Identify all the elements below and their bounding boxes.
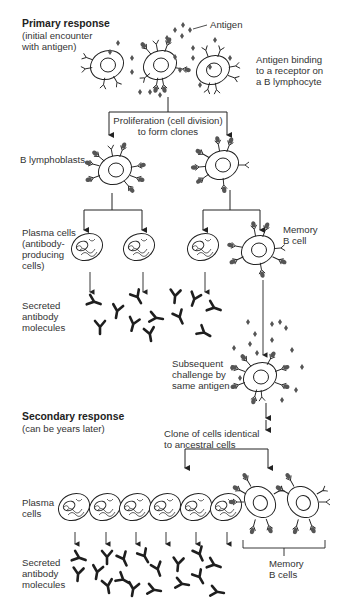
clone-identical-label: Clone of cells identical to ancestral ce… (164, 428, 259, 450)
memory-b-cell (227, 221, 288, 279)
secondary-response-heading: Secondary response (22, 411, 124, 422)
memory-b-cell-3 (274, 472, 330, 535)
memory-b-cells-label: Memory B cells (269, 558, 304, 580)
b-lymphoblast-1 (84, 142, 146, 195)
b-lymphocyte-3 (192, 45, 240, 94)
plasma-cell (119, 228, 159, 265)
secretion-arrows-2 (75, 532, 227, 544)
plasma-cells-label-2: Plasma cells (22, 497, 54, 519)
antibody-molecules-1 (87, 289, 223, 341)
b-lymphoblast-2 (191, 136, 249, 194)
plasma-cells-label: Plasma cells (antibody- producing cells) (22, 227, 76, 271)
memory-b-cell-label: Memory B cell (283, 224, 318, 246)
primary-response-heading: Primary response (22, 18, 110, 29)
secreted-antibody-label: Secreted antibody molecules (22, 300, 65, 333)
antigen-leader-line (193, 25, 207, 29)
b-lymphocyte-2 (139, 37, 192, 94)
differentiation-arrows (84, 190, 260, 230)
plasma-cell (183, 228, 223, 265)
plasma-cells-row-2 (54, 488, 246, 525)
secondary-response-subtitle: (can be years later) (22, 423, 105, 434)
subsequent-challenge-label: Subsequent challenge by same antigen (172, 358, 230, 391)
antigen-binding-label: Antigen binding to a receptor on a B lym… (256, 54, 323, 87)
secreted-antibody-label-2: Secreted antibody molecules (22, 557, 65, 590)
immune-response-diagram: Primary response (initial encounter with… (0, 0, 342, 607)
proliferation-label: Proliferation (cell division) to form cl… (113, 115, 223, 137)
antibody-molecules-2 (72, 547, 225, 598)
antigen-label: Antigen (210, 19, 243, 30)
free-antigens-secondary (230, 319, 304, 403)
memory-cells-bracket (243, 540, 325, 556)
primary-response-subtitle: (initial encounter with antigen) (22, 30, 92, 52)
b-lymphoblasts-label: B lymphoblasts (20, 154, 85, 165)
